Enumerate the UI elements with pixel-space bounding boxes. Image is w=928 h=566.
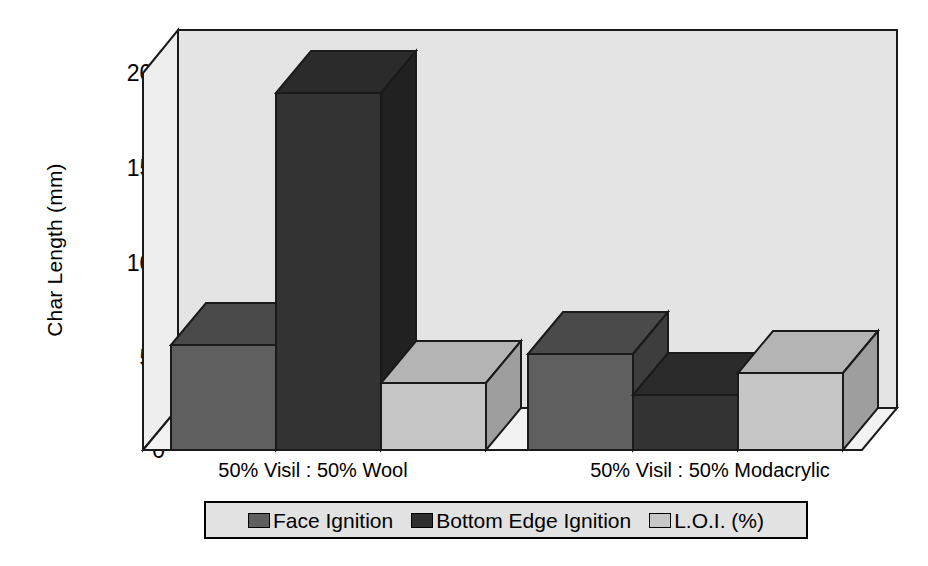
chart-legend: Face Ignition Bottom Edge Ignition L.O.I…	[204, 501, 808, 539]
legend-swatch-loi-icon	[649, 513, 671, 528]
chart-container: Char Length (mm) 200 150 100 50 0	[0, 0, 928, 566]
legend-item-face-ignition[interactable]: Face Ignition	[248, 510, 393, 531]
x-label-group-1: 50% Visil : 50% Wool	[143, 459, 483, 482]
legend-label-bottom-edge-ignition: Bottom Edge Ignition	[436, 510, 631, 531]
legend-swatch-bottom-edge-ignition-icon	[411, 513, 433, 528]
legend-item-bottom-edge-ignition[interactable]: Bottom Edge Ignition	[411, 510, 631, 531]
legend-label-loi: L.O.I. (%)	[674, 510, 764, 531]
bar-loi-wool	[381, 341, 521, 450]
legend-swatch-face-ignition-icon	[248, 513, 270, 528]
bar-loi-modacrylic	[738, 331, 878, 450]
legend-item-loi[interactable]: L.O.I. (%)	[649, 510, 764, 531]
x-label-group-2: 50% Visil : 50% Modacrylic	[510, 459, 910, 482]
legend-label-face-ignition: Face Ignition	[273, 510, 393, 531]
